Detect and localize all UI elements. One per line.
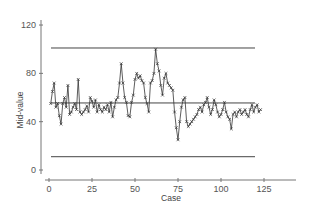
y-axis-title: Mid-value [15,91,25,128]
data-point-marker [194,115,197,118]
data-point-marker [170,86,173,89]
x-axis-title: Case [161,193,181,203]
y-tick-label: 0 [31,165,36,175]
data-point-marker [80,113,83,116]
x-tick-label: 50 [130,184,140,194]
series-line [51,49,261,140]
data-point-marker [84,108,87,111]
data-point-marker [190,120,193,123]
data-point-marker [192,118,195,121]
control-chart: 04080120 0255075100125 Case Mid-value [0,0,311,218]
data-point-marker [242,111,245,114]
data-point-marker [189,123,192,126]
y-tick-label: 120 [21,20,36,30]
x-axis: 0255075100125 [45,178,296,194]
x-tick-label: 100 [213,184,228,194]
data-point-marker [168,84,171,87]
x-tick-label: 25 [87,184,97,194]
x-tick-label: 125 [256,184,271,194]
data-point-marker [259,108,262,111]
y-tick-label: 40 [26,117,36,127]
data-point-marker [82,111,85,114]
x-tick-label: 0 [46,184,51,194]
y-tick-label: 80 [26,68,36,78]
data-series [49,48,262,141]
